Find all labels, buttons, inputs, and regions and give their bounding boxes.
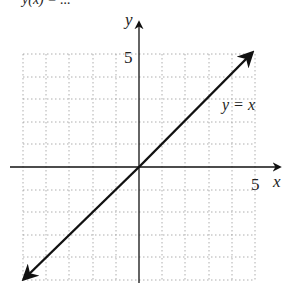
- line-y-equals-x-lower: [24, 167, 139, 279]
- line-label: y = x: [220, 96, 255, 114]
- y-tick-label: 5: [124, 48, 133, 67]
- cropped-header-text: y(x) = ...: [20, 0, 71, 8]
- y-axis-label: y: [123, 10, 133, 29]
- x-tick-label: 5: [251, 175, 260, 194]
- coordinate-plane: y(x) = ... y 5 x 5 y = x: [0, 0, 294, 283]
- x-axis-label: x: [272, 172, 281, 191]
